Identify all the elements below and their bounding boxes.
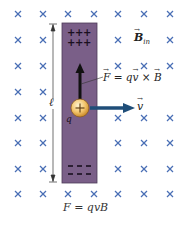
length-label: ℓ	[49, 96, 54, 109]
force-equation-label: →F = q→v × →B	[103, 71, 162, 83]
velocity-label: →v	[137, 100, 143, 113]
positive-charge-accumulation-icon: +++ +++	[67, 27, 91, 48]
svg-text:+: +	[83, 37, 91, 48]
positive-charge-q-icon	[71, 99, 89, 117]
charge-q-label: q	[66, 114, 72, 124]
motional-emf-diagram: +++ +++	[0, 0, 191, 228]
caption-formula: F = qvB	[63, 201, 108, 214]
magnetic-field-label: → B in	[134, 31, 150, 46]
